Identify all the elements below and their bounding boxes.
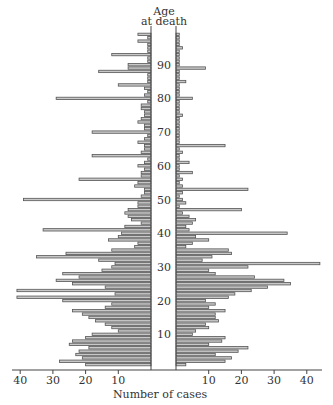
bar-left-age-50 <box>23 198 151 200</box>
bar-right-age-35 <box>176 249 228 251</box>
bar-right-age-34 <box>176 252 232 254</box>
bar-left-age-15 <box>89 316 151 318</box>
bar-left-age-51 <box>141 195 151 197</box>
tick-label-left-40: 40 <box>13 374 27 387</box>
bar-left-age-18 <box>105 306 151 308</box>
bar-left-age-70 <box>92 131 151 133</box>
bar-left-age-11 <box>118 330 151 332</box>
bar-left-age-21 <box>17 296 151 298</box>
bar-right-age-56 <box>176 178 183 180</box>
bar-right-age-10 <box>176 333 192 335</box>
bar-right-age-4 <box>176 353 215 355</box>
age-label-40: 40 <box>157 227 171 240</box>
bar-right-age-6 <box>176 347 248 349</box>
bar-right-age-54 <box>176 185 183 187</box>
bar-right-age-8 <box>176 340 222 342</box>
bar-left-age-14 <box>95 320 151 322</box>
bar-left-age-8 <box>73 340 151 342</box>
age-label-90: 90 <box>157 59 171 72</box>
bar-left-age-10 <box>92 333 151 335</box>
bar-left-age-30 <box>112 266 151 268</box>
tick-label-left-20: 20 <box>79 374 93 387</box>
bar-left-age-22 <box>115 293 151 295</box>
bar-left-age-39 <box>118 235 151 237</box>
bar-left-age-19 <box>112 303 151 305</box>
tick-label-right-30: 30 <box>267 374 281 387</box>
bar-left-age-2 <box>59 360 151 362</box>
bar-right-age-9 <box>176 336 225 338</box>
bar-left-age-32 <box>99 259 151 261</box>
bar-right-age-33 <box>176 256 212 258</box>
bar-right-age-50 <box>176 198 183 200</box>
bar-left-age-46 <box>125 212 151 214</box>
bar-left-age-67 <box>138 141 151 143</box>
bar-left-age-3 <box>82 357 151 359</box>
bar-left-age-48 <box>138 205 151 207</box>
bar-right-age-25 <box>176 283 290 285</box>
bar-right-age-27 <box>176 276 254 278</box>
bar-right-age-20 <box>176 299 205 301</box>
bar-right-age-13 <box>176 323 205 325</box>
bar-left-age-20 <box>63 299 151 301</box>
bar-left-age-80 <box>56 97 151 99</box>
bar-left-age-13 <box>105 323 151 325</box>
bar-right-age-22 <box>176 293 235 295</box>
bar-left-age-5 <box>79 350 151 352</box>
bar-right-age-47 <box>176 208 241 210</box>
bar-left-age-61 <box>144 161 151 163</box>
bar-right-age-19 <box>176 303 215 305</box>
bar-left-age-23 <box>17 289 151 291</box>
age-label-50: 50 <box>157 194 171 207</box>
bar-left-age-43 <box>141 222 151 224</box>
bar-right-age-16 <box>176 313 215 315</box>
bar-right-age-18 <box>176 306 209 308</box>
bar-right-age-75 <box>176 114 183 116</box>
bar-left-age-76 <box>144 111 151 113</box>
bar-left-age-24 <box>105 286 151 288</box>
bar-left-age-81 <box>144 94 151 96</box>
bar-left-age-45 <box>128 215 151 217</box>
bar-right-age-30 <box>176 266 248 268</box>
bar-left-age-42 <box>125 225 151 227</box>
bar-left-age-97 <box>138 40 151 42</box>
bar-left-age-7 <box>69 343 151 345</box>
bar-right-age-49 <box>176 202 186 204</box>
bar-left-age-93 <box>112 53 151 55</box>
bar-right-age-64 <box>176 151 183 153</box>
bar-left-age-90 <box>128 64 151 66</box>
bar-left-age-37 <box>138 242 151 244</box>
bar-right-age-61 <box>176 161 189 163</box>
bar-left-age-25 <box>73 283 151 285</box>
bar-right-age-7 <box>176 343 209 345</box>
bar-right-age-14 <box>176 320 219 322</box>
bar-left-age-59 <box>144 168 151 170</box>
bar-left-age-58 <box>141 171 151 173</box>
bar-right-age-42 <box>176 225 186 227</box>
bar-left-age-99 <box>138 33 151 35</box>
age-label-30: 30 <box>157 261 171 274</box>
bar-left-age-83 <box>144 87 151 89</box>
bar-left-age-72 <box>144 124 151 126</box>
bar-left-age-40 <box>122 232 151 234</box>
bar-right-age-39 <box>176 235 196 237</box>
bar-right-age-17 <box>176 310 225 312</box>
bar-right-age-31 <box>176 262 320 264</box>
tick-label-right-10: 10 <box>202 374 216 387</box>
bar-left-age-77 <box>141 107 151 109</box>
age-axis-labels: 102030405060708090 <box>157 59 171 342</box>
left-series-bars <box>17 33 151 366</box>
bar-left-age-78 <box>141 104 151 106</box>
tick-label-right-40: 40 <box>300 374 314 387</box>
bar-right-age-11 <box>176 330 196 332</box>
bar-left-age-12 <box>112 326 151 328</box>
right-series-bars <box>176 33 320 366</box>
bar-left-age-52 <box>144 192 151 194</box>
bar-right-age-15 <box>176 316 215 318</box>
bar-left-age-38 <box>108 239 151 241</box>
age-label-20: 20 <box>157 295 171 308</box>
bar-left-age-29 <box>102 269 151 271</box>
bar-right-age-40 <box>176 232 287 234</box>
bar-left-age-26 <box>56 279 151 281</box>
bar-right-age-24 <box>176 286 268 288</box>
bar-left-age-44 <box>131 219 151 221</box>
